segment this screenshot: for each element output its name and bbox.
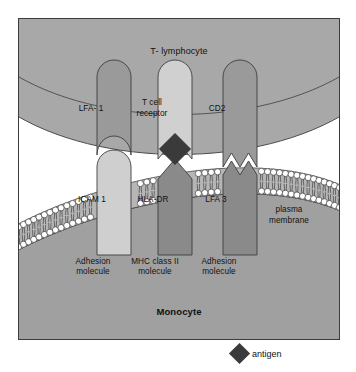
antigen-legend-label: antigen [252, 349, 282, 359]
icam1-label: ICAM 1 [61, 195, 123, 205]
legend: antigen [232, 346, 282, 361]
plasma-membrane-label: plasma membrane [251, 205, 327, 226]
immunology-diagram-svg [19, 19, 339, 339]
monocyte-label: Monocyte [79, 307, 279, 317]
lfa3-caption: Adhesion molecule [185, 257, 253, 276]
lfa3-caption-line2: molecule [202, 267, 236, 276]
hla-dr-label: HLA-DR [122, 195, 184, 205]
t-lymphocyte-label: T- lymphocyte [79, 47, 279, 57]
icam1-caption: Adhesion molecule [59, 257, 127, 276]
tcr-label-line2: receptor [137, 109, 168, 118]
hla-dr-protein [158, 159, 192, 255]
tcr-label-line1: T cell [142, 98, 162, 107]
cd2-label: CD2 [187, 104, 247, 114]
diagram-frame: T- lymphocyte LFA- 1 T cell receptor CD2… [18, 18, 340, 340]
hla-dr-caption-line2: molecule [138, 267, 172, 276]
icam1-caption-line2: molecule [76, 267, 110, 276]
hla-dr-caption-line1: MHC class II [131, 257, 179, 266]
antigen-legend-icon [229, 343, 250, 364]
icam1-caption-line1: Adhesion [76, 257, 111, 266]
hla-dr-caption: MHC class II molecule [120, 257, 190, 276]
diagram-stage: T- lymphocyte LFA- 1 T cell receptor CD2… [0, 0, 356, 372]
plasma-membrane-label-line2: membrane [269, 216, 309, 225]
plasma-membrane-label-line1: plasma [276, 205, 303, 214]
t-cell-receptor-label: T cell receptor [122, 98, 182, 119]
lfa3-label: LFA 3 [187, 195, 245, 205]
lfa1-label: LFA- 1 [61, 104, 121, 114]
lfa3-caption-line1: Adhesion [202, 257, 237, 266]
